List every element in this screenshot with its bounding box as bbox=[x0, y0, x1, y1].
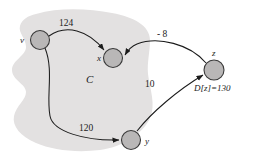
node-z[interactable] bbox=[204, 60, 224, 80]
distance-label-z: D[z]=130 bbox=[194, 84, 231, 93]
node-y[interactable] bbox=[122, 131, 141, 150]
graph-figure: v x y z C 124 120 - 8 10 D[z]=130 bbox=[0, 0, 256, 160]
edge-weight-y-z: 10 bbox=[145, 80, 155, 90]
edge-weight-v-y: 120 bbox=[79, 124, 93, 134]
node-x[interactable] bbox=[104, 49, 123, 68]
node-v[interactable] bbox=[31, 31, 50, 50]
edge-weight-z-x: - 8 bbox=[157, 30, 167, 40]
region-label-c: C bbox=[86, 74, 93, 85]
graph-canvas bbox=[0, 0, 256, 160]
node-label-v: v bbox=[20, 36, 24, 45]
node-label-y: y bbox=[145, 137, 149, 146]
edge-weight-v-x: 124 bbox=[59, 19, 73, 29]
node-label-x: x bbox=[97, 54, 101, 63]
node-label-z: z bbox=[212, 49, 216, 58]
